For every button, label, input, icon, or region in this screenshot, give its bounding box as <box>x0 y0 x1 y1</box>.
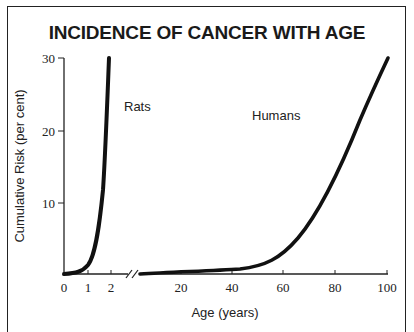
x-tick-label: 100 <box>377 280 397 295</box>
x-axis-label: Age (years) <box>191 305 258 320</box>
y-tick-label: 30 <box>42 51 55 66</box>
x-tick-label: 60 <box>277 280 290 295</box>
y-tick-label: 20 <box>42 124 55 139</box>
axis-break-mark <box>132 270 138 278</box>
y-tick-label: 10 <box>42 196 55 211</box>
x-tick-label: 20 <box>175 280 188 295</box>
series-rats-line <box>64 58 109 274</box>
x-tick-label: 0 <box>61 280 68 295</box>
x-tick-label: 1 <box>85 280 92 295</box>
y-axis-label: Cumulative Risk (per cent) <box>12 89 27 242</box>
y-ticks <box>58 58 64 203</box>
series-humans-line <box>140 58 388 274</box>
x-tick-label: 40 <box>226 280 239 295</box>
annotation-rats: Rats <box>124 99 151 114</box>
x-tick-label: 2 <box>108 280 115 295</box>
annotation-humans: Humans <box>252 108 301 123</box>
x-tick-label: 80 <box>329 280 342 295</box>
